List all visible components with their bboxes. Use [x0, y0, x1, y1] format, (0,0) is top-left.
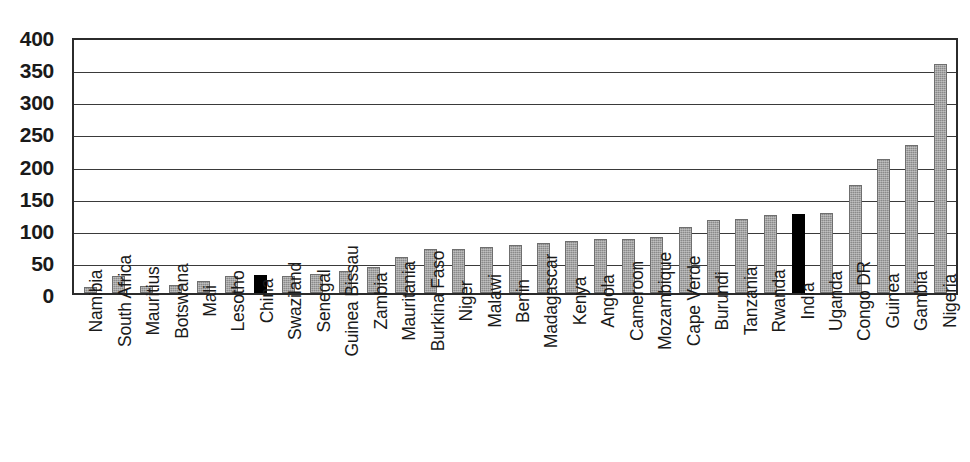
y-axis: 400350300250200150100500 [0, 0, 66, 462]
bar [934, 64, 947, 293]
x-label-slot: Kenya [558, 297, 586, 459]
x-label-slot: Niger [444, 297, 472, 459]
x-label-slot: Malawi [472, 297, 500, 459]
bar-slot [813, 40, 841, 293]
x-label-slot: Uganda [814, 297, 842, 459]
y-axis-tick-label: 400 [20, 28, 54, 49]
bar-slot [444, 40, 472, 293]
y-axis-tick-label: 150 [20, 188, 54, 209]
x-label-slot: Senegal [302, 297, 330, 459]
x-label-slot: Cameroon [615, 297, 643, 459]
x-label-slot: Gambia [899, 297, 927, 459]
bar-slot [274, 40, 302, 293]
y-axis-tick-label: 200 [20, 156, 54, 177]
bars-container [74, 40, 956, 293]
x-label-slot: China [245, 297, 273, 459]
x-label-slot: Madagascar [529, 297, 557, 459]
bar-slot [926, 40, 954, 293]
bar-slot [473, 40, 501, 293]
x-label-slot: Burkina Faso [415, 297, 443, 459]
bar-slot [784, 40, 812, 293]
x-label-slot: Guinea Bissau [330, 297, 358, 459]
plot-area [72, 38, 958, 295]
y-axis-tick-label: 350 [20, 60, 54, 81]
x-label-slot: Zambia [359, 297, 387, 459]
bar-slot [614, 40, 642, 293]
x-label-slot: Nigeria [928, 297, 956, 459]
bar-slot [161, 40, 189, 293]
y-axis-tick-label: 250 [20, 124, 54, 145]
x-axis: NamibiaSouth AfricaMauritiusBotswanaMali… [72, 297, 958, 459]
bar-slot [501, 40, 529, 293]
y-axis-tick-label: 0 [43, 285, 54, 306]
y-axis-tick-label: 100 [20, 220, 54, 241]
x-label-slot: Mali [188, 297, 216, 459]
bar-slot [728, 40, 756, 293]
bar-slot [133, 40, 161, 293]
bar-slot [359, 40, 387, 293]
bar-slot [246, 40, 274, 293]
x-label-slot: Botswana [159, 297, 187, 459]
bar-slot [218, 40, 246, 293]
x-label-slot: Mozambique [643, 297, 671, 459]
bar-slot [388, 40, 416, 293]
x-label-slot: Guinea [871, 297, 899, 459]
bar-slot [869, 40, 897, 293]
x-axis-tick-label: Nigeria [942, 274, 960, 328]
bar-slot [189, 40, 217, 293]
x-label-slot: Cape Verde [672, 297, 700, 459]
x-label-slot: Benin [501, 297, 529, 459]
x-label-slot: Mauritius [131, 297, 159, 459]
x-label-slot: Congo DR [842, 297, 870, 459]
x-label-slot: Angola [586, 297, 614, 459]
y-axis-tick-label: 300 [20, 92, 54, 113]
x-label-slot: Lesotho [216, 297, 244, 459]
x-label-slot: India [785, 297, 813, 459]
bar-slot [841, 40, 869, 293]
bar-slot [558, 40, 586, 293]
bar-slot [586, 40, 614, 293]
bar-slot [303, 40, 331, 293]
bar-slot [756, 40, 784, 293]
x-label-slot: Mauritania [387, 297, 415, 459]
x-label-slot: Swaziland [273, 297, 301, 459]
x-label-slot: Tanzania [728, 297, 756, 459]
x-label-slot: Burundi [700, 297, 728, 459]
bar-slot [76, 40, 104, 293]
x-label-slot: South Africa [102, 297, 130, 459]
bar-highlighted [792, 214, 805, 293]
bar-chart: 400350300250200150100500 NamibiaSouth Af… [0, 0, 970, 462]
x-label-slot: Namibia [74, 297, 102, 459]
y-axis-tick-label: 50 [31, 252, 54, 273]
x-label-slot: Rwanda [757, 297, 785, 459]
bar-slot [898, 40, 926, 293]
